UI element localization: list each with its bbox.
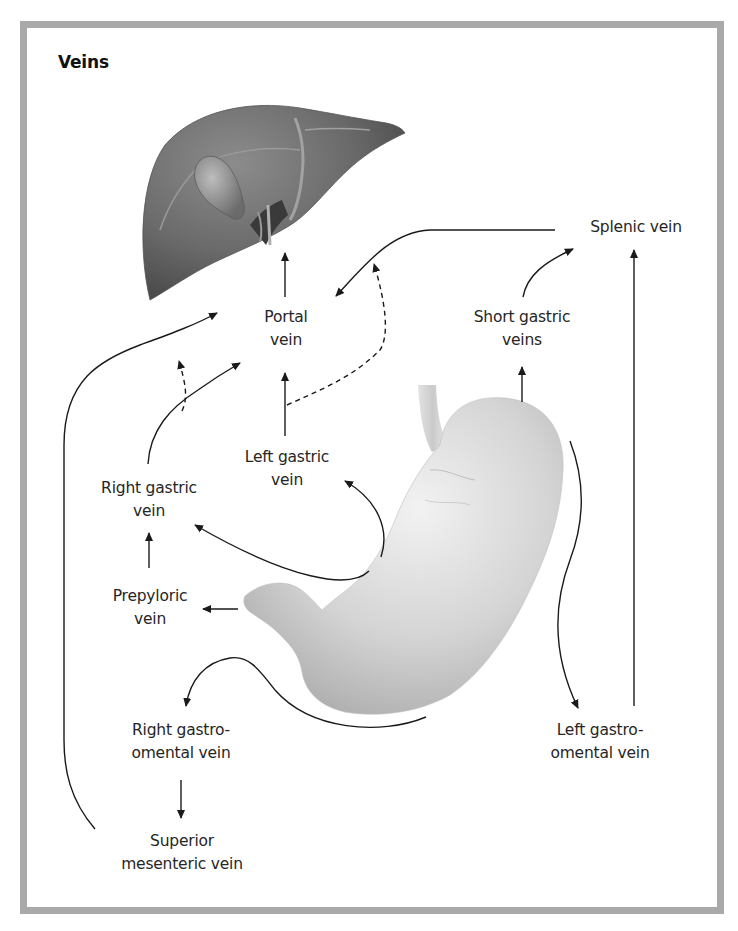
label-portal-vein: Portal vein: [264, 306, 307, 352]
label-left-gastric-vein: Left gastric vein: [245, 446, 329, 492]
arrow-right-gastric-to-portal: [148, 363, 240, 464]
stomach-illustration: [244, 385, 563, 714]
arrow-stomach-to-left-gastric: [345, 481, 384, 557]
label-right-gastro-omental-vein: Right gastro- omental vein: [131, 719, 230, 765]
label-prepyloric-vein: Prepyloric vein: [113, 585, 188, 631]
arrow-splenic-to-portal: [336, 230, 555, 296]
label-left-gastro-omental-vein: Left gastro- omental vein: [550, 719, 649, 765]
arrow-stomach-to-right-gastric: [195, 525, 369, 580]
label-superior-mesenteric-vein: Superior mesenteric vein: [121, 830, 243, 876]
label-splenic-vein: Splenic vein: [590, 216, 682, 239]
label-short-gastric-veins: Short gastric veins: [474, 306, 571, 352]
arrow-short-gastric-to-splenic: [523, 249, 573, 297]
vein-diagram: [0, 0, 738, 931]
liver-illustration: [143, 105, 405, 300]
label-right-gastric-vein: Right gastric vein: [101, 477, 197, 523]
